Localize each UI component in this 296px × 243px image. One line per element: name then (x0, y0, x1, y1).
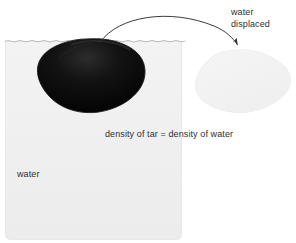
displacement-arrow (100, 16, 238, 45)
displaced-water-blob (195, 50, 290, 113)
buoyancy-diagram: water displaced density of tar = density… (0, 0, 296, 243)
label-water-displaced-line2: displaced (231, 19, 270, 31)
label-water-displaced-line1: water (231, 7, 270, 19)
diagram-canvas (0, 0, 296, 243)
label-water-displaced: water displaced (231, 7, 270, 30)
label-density-equation: density of tar = density of water (105, 129, 233, 141)
label-water-body: water (17, 169, 40, 181)
